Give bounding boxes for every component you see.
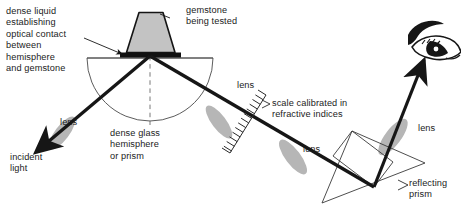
label-incident-light: incident light <box>10 152 42 175</box>
transmitted-ray <box>150 56 374 187</box>
label-dense-liquid: dense liquid establishing optical contac… <box>6 6 66 74</box>
leader-scale <box>262 100 270 108</box>
label-scale: scale calibrated in refractive indices <box>272 98 347 121</box>
label-hemisphere: dense glass hemisphere or prism <box>110 128 160 162</box>
label-lens-right: lens <box>418 123 435 134</box>
leader-dense-liquid <box>84 38 122 54</box>
reflected-ray-to-eye <box>374 60 424 187</box>
label-lens-middle: lens <box>303 144 320 155</box>
eye-icon <box>408 21 461 60</box>
lens-scale-side <box>201 102 236 142</box>
label-gemstone: gemstone being tested <box>186 5 237 28</box>
label-lens-scale: lens <box>237 80 254 91</box>
refractometer-diagram: dense liquid establishing optical contac… <box>0 0 461 216</box>
diagram-canvas <box>0 0 461 216</box>
lens-middle <box>274 136 311 179</box>
gemstone-being-tested <box>127 13 176 53</box>
label-reflecting-prism: reflecting prism <box>409 178 447 201</box>
leader-reflecting-prism <box>398 180 408 190</box>
label-lens-left: lens <box>60 117 77 128</box>
